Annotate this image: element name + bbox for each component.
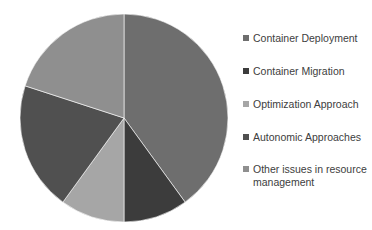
legend-item-container-migration: Container Migration [243, 65, 371, 78]
legend-swatch-icon [243, 166, 249, 172]
legend-swatch-icon [243, 35, 249, 41]
legend-swatch-icon [243, 134, 249, 140]
legend-item-autonomic-approaches: Autonomic Approaches [243, 131, 371, 144]
legend-label: Container Migration [253, 65, 371, 78]
legend-swatch-icon [243, 68, 249, 74]
legend-label: Autonomic Approaches [253, 131, 371, 144]
legend-item-container-deployment: Container Deployment [243, 32, 371, 45]
legend-item-other-issues: Other issues in resource management [243, 163, 371, 189]
legend-swatch-icon [243, 101, 249, 107]
legend-label: Optimization Approach [253, 98, 371, 111]
legend-label: Other issues in resource management [253, 163, 371, 189]
pie-chart [0, 0, 240, 230]
legend-label: Container Deployment [253, 32, 371, 45]
legend-item-optimization-approach: Optimization Approach [243, 98, 371, 111]
